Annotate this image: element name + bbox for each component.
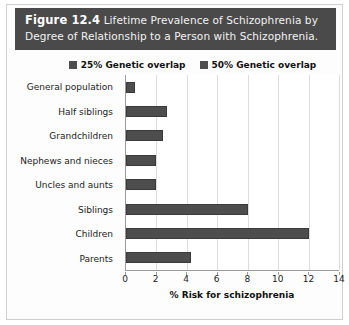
y-axis-label: Nephews and nieces [7, 149, 119, 174]
x-axis-tick-label: 2 [153, 274, 159, 284]
x-axis-ticks: 02468101214 [125, 272, 339, 288]
y-axis-label: Parents [7, 247, 119, 272]
bar-row [126, 221, 339, 245]
x-axis-tick-label: 6 [214, 274, 220, 284]
legend-swatch-50-icon [200, 61, 208, 69]
bar [126, 204, 248, 215]
legend-item-25: 25% Genetic overlap [69, 60, 186, 70]
bar-series [126, 75, 339, 270]
x-axis-tick-label: 10 [272, 274, 283, 284]
x-axis-tick-label: 4 [183, 274, 189, 284]
gridline [339, 75, 340, 270]
bar [126, 252, 191, 263]
y-axis-label: Siblings [7, 198, 119, 223]
chart-legend: 25% Genetic overlap 50% Genetic overlap [7, 57, 344, 73]
x-axis-tick-label: 12 [303, 274, 314, 284]
x-axis-tick-label: 14 [333, 274, 344, 284]
bar [126, 82, 135, 93]
figure-caption-banner: Figure 12.4 Lifetime Prevalence of Schiz… [15, 8, 336, 50]
x-axis-title: % Risk for schizophrenia [125, 290, 339, 300]
legend-label-25: 25% Genetic overlap [81, 60, 186, 70]
bar [126, 155, 156, 166]
plot-wrapper: General population Half siblings Grandch… [7, 75, 344, 319]
bar-row [126, 173, 339, 197]
bar [126, 179, 156, 190]
legend-item-50: 50% Genetic overlap [200, 60, 317, 70]
x-axis-tick-label: 0 [122, 274, 128, 284]
figure-number: Figure 12.4 [25, 13, 100, 27]
bar [126, 228, 309, 239]
bar-row [126, 197, 339, 221]
y-axis-label: Children [7, 222, 119, 247]
figure-container: Figure 12.4 Lifetime Prevalence of Schiz… [0, 0, 349, 325]
bar [126, 106, 167, 117]
y-axis-label: Half siblings [7, 100, 119, 125]
y-axis-label: General population [7, 75, 119, 100]
bar-row [126, 124, 339, 148]
y-axis-label: Uncles and aunts [7, 173, 119, 198]
bar-row [126, 148, 339, 172]
y-axis-category-labels: General population Half siblings Grandch… [7, 75, 119, 271]
bar-row [126, 99, 339, 123]
bar-row [126, 75, 339, 99]
bar [126, 130, 163, 141]
y-axis-label: Grandchildren [7, 124, 119, 149]
legend-swatch-25-icon [69, 61, 77, 69]
figure-panel: Figure 12.4 Lifetime Prevalence of Schiz… [6, 4, 343, 320]
bar-row [126, 246, 339, 270]
x-axis-tick-label: 8 [244, 274, 250, 284]
legend-label-50: 50% Genetic overlap [212, 60, 317, 70]
plot-area [125, 75, 339, 271]
